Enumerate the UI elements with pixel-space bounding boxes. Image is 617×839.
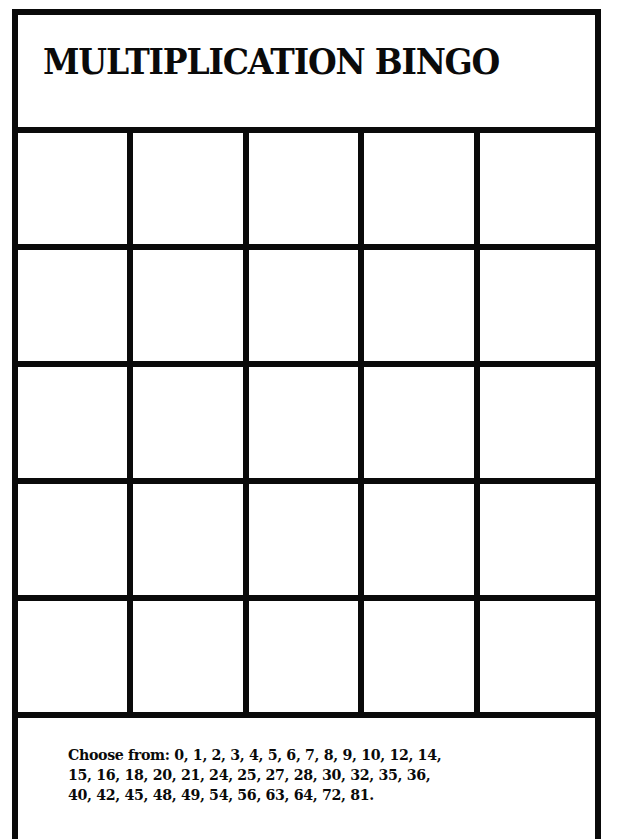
bingo-cell-r1c5[interactable] bbox=[480, 133, 595, 250]
bingo-grid bbox=[18, 133, 595, 718]
bingo-cell-r2c2[interactable] bbox=[133, 250, 248, 367]
bingo-cell-r2c3[interactable] bbox=[249, 250, 364, 367]
number-choices-section: Choose from: 0, 1, 2, 3, 4, 5, 6, 7, 8, … bbox=[18, 718, 595, 839]
choices-line-3: 40, 42, 45, 48, 49, 54, 56, 63, 64, 72, … bbox=[68, 785, 568, 805]
bingo-cell-r4c4[interactable] bbox=[364, 484, 479, 601]
bingo-cell-r3c2[interactable] bbox=[133, 367, 248, 484]
page-title: MULTIPLICATION BINGO bbox=[43, 41, 499, 83]
choices-line-2: 15, 16, 18, 20, 21, 24, 25, 27, 28, 30, … bbox=[68, 765, 568, 785]
bingo-cell-r3c5[interactable] bbox=[480, 367, 595, 484]
bingo-cell-r4c5[interactable] bbox=[480, 484, 595, 601]
bingo-cell-r3c3[interactable] bbox=[249, 367, 364, 484]
bingo-cell-r4c3[interactable] bbox=[249, 484, 364, 601]
bingo-cell-r1c2[interactable] bbox=[133, 133, 248, 250]
bingo-cell-r5c1[interactable] bbox=[18, 601, 133, 718]
bingo-cell-r2c1[interactable] bbox=[18, 250, 133, 367]
bingo-cell-r5c4[interactable] bbox=[364, 601, 479, 718]
bingo-cell-r2c4[interactable] bbox=[364, 250, 479, 367]
bingo-cell-r1c3[interactable] bbox=[249, 133, 364, 250]
choices-line-1: Choose from: 0, 1, 2, 3, 4, 5, 6, 7, 8, … bbox=[68, 745, 568, 765]
bingo-cell-r4c1[interactable] bbox=[18, 484, 133, 601]
bingo-cell-r5c3[interactable] bbox=[249, 601, 364, 718]
bingo-cell-r5c5[interactable] bbox=[480, 601, 595, 718]
bingo-cell-r4c2[interactable] bbox=[133, 484, 248, 601]
bingo-cell-r3c4[interactable] bbox=[364, 367, 479, 484]
bingo-cell-r1c1[interactable] bbox=[18, 133, 133, 250]
bingo-cell-r3c1[interactable] bbox=[18, 367, 133, 484]
bingo-cell-r2c5[interactable] bbox=[480, 250, 595, 367]
bingo-card: MULTIPLICATION BINGO Choose from: 0, 1, … bbox=[12, 9, 601, 839]
number-choices-text: Choose from: 0, 1, 2, 3, 4, 5, 6, 7, 8, … bbox=[68, 745, 568, 805]
bingo-cell-r5c2[interactable] bbox=[133, 601, 248, 718]
bingo-cell-r1c4[interactable] bbox=[364, 133, 479, 250]
card-header: MULTIPLICATION BINGO bbox=[18, 15, 595, 133]
